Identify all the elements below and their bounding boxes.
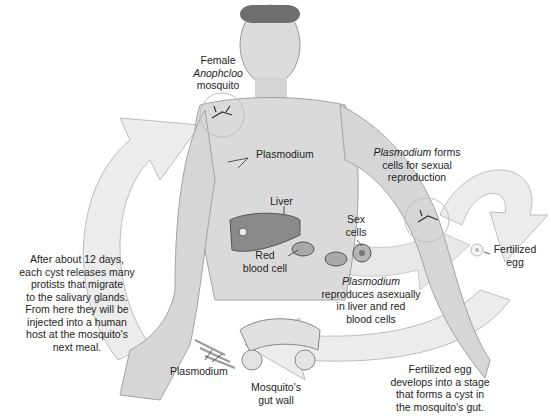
liver-cell-marker (239, 228, 247, 236)
label-cyst-release: After about 12 days, each cyst releases … (2, 253, 152, 353)
label-plasmodium-gut: Plasmodium (170, 365, 228, 378)
label-plasmodium-arm: Plasmodium (256, 148, 314, 161)
malaria-life-cycle-diagram: Female Anophcloo mosquito Plasmodium Pla… (0, 0, 551, 420)
gut-pouch-right (295, 350, 315, 370)
red-blood-cell-2 (325, 252, 347, 266)
gut-pouch-left (242, 350, 262, 370)
human-hair (240, 5, 300, 23)
label-sexual-reproduction: Plasmodium forms cells for sexual reprod… (364, 146, 470, 184)
sex-cell-nucleus (359, 250, 365, 256)
label-red-blood-cell: Red blood cell (237, 249, 293, 274)
label-asexual-reproduction: Plasmodium reproduces asexually in liver… (316, 275, 426, 325)
label-cyst-stage: Fertilized egg develops into a stage tha… (380, 363, 500, 413)
label-female-mosquito: Female Anophcloo mosquito (183, 54, 253, 92)
label-gut-wall: Mosquito's gut wall (246, 381, 306, 406)
diagram-artwork (0, 0, 551, 420)
plasmodium-streaks (195, 340, 235, 368)
fertilized-egg-core (475, 248, 479, 252)
red-blood-cell-1 (292, 242, 314, 256)
label-fertilized-egg: Fertilized egg (490, 243, 540, 268)
label-liver: Liver (270, 195, 293, 208)
label-sex-cells: Sex cells (341, 213, 371, 238)
